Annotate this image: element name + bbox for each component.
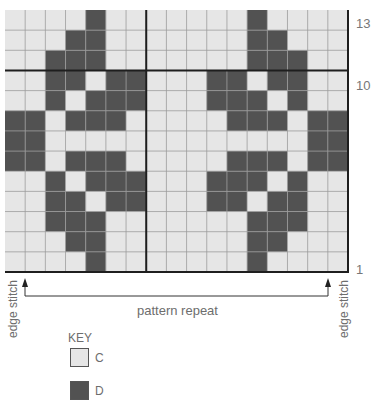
chart-cell-d xyxy=(86,252,106,272)
chart-cell-d xyxy=(66,191,86,211)
chart-cell-c xyxy=(166,171,186,191)
chart-cell-c xyxy=(207,212,227,232)
chart-cell-c xyxy=(267,252,287,272)
chart-cell-d xyxy=(86,30,106,50)
chart-cell-c xyxy=(227,252,247,272)
chart-cell-c xyxy=(207,151,227,171)
chart-cell-c xyxy=(247,131,267,151)
chart-cell-c xyxy=(126,151,146,171)
chart-cell-d xyxy=(247,111,267,131)
chart-cell-c xyxy=(308,30,328,50)
key-label-d: D xyxy=(95,384,104,398)
chart-cell-d xyxy=(106,70,126,90)
pattern-repeat-arrow xyxy=(22,278,331,296)
chart-cell-c xyxy=(308,212,328,232)
chart-cell-d xyxy=(66,111,86,131)
chart-cell-c xyxy=(166,131,186,151)
chart-cell-d xyxy=(227,191,247,211)
chart-cell-c xyxy=(308,171,328,191)
chart-cell-c xyxy=(146,191,166,211)
chart-cell-c xyxy=(207,50,227,70)
chart-cell-d xyxy=(267,30,287,50)
chart-cell-d xyxy=(126,70,146,90)
key-swatch-c xyxy=(70,348,89,367)
chart-cell-c xyxy=(227,232,247,252)
chart-cell-d xyxy=(267,111,287,131)
chart-cell-c xyxy=(66,171,86,191)
chart-cell-c xyxy=(5,30,25,50)
chart-cell-c xyxy=(308,10,328,30)
chart-cell-c xyxy=(106,30,126,50)
chart-cell-d xyxy=(106,171,126,191)
chart-cell-d xyxy=(5,151,25,171)
chart-cell-d xyxy=(247,171,267,191)
chart-cell-c xyxy=(106,212,126,232)
chart-cell-c xyxy=(308,232,328,252)
chart-cell-d xyxy=(86,91,106,111)
chart-cell-c xyxy=(207,131,227,151)
chart-cell-d xyxy=(126,171,146,191)
chart-cell-c xyxy=(66,10,86,30)
chart-cell-d xyxy=(247,30,267,50)
chart-cell-c xyxy=(146,232,166,252)
chart-cell-c xyxy=(5,212,25,232)
chart-cell-c xyxy=(187,70,207,90)
chart-cell-d xyxy=(267,70,287,90)
chart-cell-d xyxy=(247,151,267,171)
chart-cell-c xyxy=(187,131,207,151)
chart-cell-d xyxy=(25,151,45,171)
chart-cell-c xyxy=(187,50,207,70)
chart-cell-c xyxy=(45,131,65,151)
chart-cell-d xyxy=(45,212,65,232)
chart-cell-d xyxy=(227,91,247,111)
chart-cell-c xyxy=(146,30,166,50)
chart-cell-c xyxy=(106,10,126,30)
chart-cell-d xyxy=(227,111,247,131)
chart-cell-c xyxy=(247,70,267,90)
chart-cell-d xyxy=(328,131,348,151)
chart-cell-c xyxy=(146,151,166,171)
chart-cell-d xyxy=(227,70,247,90)
chart-cell-c xyxy=(308,91,328,111)
chart-cell-c xyxy=(287,10,307,30)
chart-cell-d xyxy=(66,232,86,252)
chart-cell-c xyxy=(146,252,166,272)
chart-cell-d xyxy=(287,50,307,70)
chart-cell-c xyxy=(146,70,166,90)
chart-cell-c xyxy=(5,70,25,90)
chart-cell-c xyxy=(45,30,65,50)
chart-cell-c xyxy=(126,111,146,131)
chart-cell-c xyxy=(328,70,348,90)
chart-cell-d xyxy=(86,151,106,171)
chart-cell-c xyxy=(146,91,166,111)
chart-cell-c xyxy=(166,70,186,90)
chart-cell-c xyxy=(45,252,65,272)
chart-cell-c xyxy=(166,252,186,272)
chart-cell-c xyxy=(66,91,86,111)
chart-cell-c xyxy=(227,212,247,232)
chart-cell-d xyxy=(207,91,227,111)
chart-cell-d xyxy=(207,70,227,90)
chart-cell-d xyxy=(227,151,247,171)
chart-cell-c xyxy=(227,131,247,151)
chart-cell-c xyxy=(267,131,287,151)
chart-cell-d xyxy=(86,171,106,191)
chart-cell-d xyxy=(45,171,65,191)
chart-cell-c xyxy=(5,171,25,191)
chart-cell-d xyxy=(5,131,25,151)
chart-cell-c xyxy=(126,212,146,232)
chart-cell-c xyxy=(328,91,348,111)
chart-cell-d xyxy=(66,50,86,70)
chart-cell-c xyxy=(166,50,186,70)
chart-cell-c xyxy=(166,10,186,30)
key-label-c: C xyxy=(95,351,104,365)
chart-cell-c xyxy=(25,232,45,252)
chart-grid xyxy=(5,10,348,272)
chart-cell-d xyxy=(66,30,86,50)
chart-cell-c xyxy=(25,171,45,191)
chart-cell-c xyxy=(106,252,126,272)
chart-cell-c xyxy=(5,91,25,111)
chart-cell-c xyxy=(328,10,348,30)
chart-cell-d xyxy=(106,111,126,131)
chart-cell-c xyxy=(66,252,86,272)
